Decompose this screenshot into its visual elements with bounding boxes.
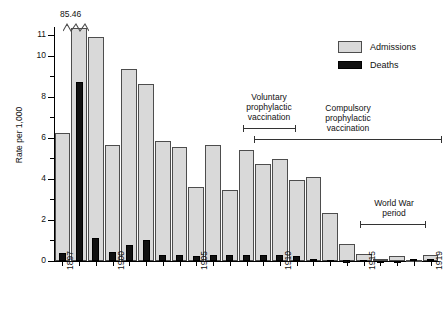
y-axis-title: Rate per 1,000 <box>14 90 24 180</box>
x-tick-1903 <box>163 261 164 266</box>
admissions-bar <box>306 177 322 261</box>
legend-item-deaths: Deaths <box>338 58 416 71</box>
x-tick-1906 <box>213 261 214 266</box>
y-tick-0 <box>48 261 54 262</box>
admissions-bar <box>255 164 271 262</box>
y-tick-label-11: 11 <box>24 30 46 39</box>
x-tick-1913 <box>330 261 331 266</box>
legend: Admissions Deaths <box>338 40 416 76</box>
y-tick-3 <box>50 199 54 200</box>
y-tick-4 <box>48 179 54 180</box>
y-tick-2 <box>48 220 54 221</box>
x-tick-1915 <box>364 261 365 266</box>
x-tick-1901 <box>129 261 130 266</box>
admissions-bar <box>339 244 355 261</box>
x-tick-1897 <box>62 261 63 266</box>
y-tick-9 <box>50 76 54 77</box>
y-tick-5 <box>50 158 54 159</box>
x-tick-label-1900: 1900 <box>117 251 126 270</box>
y-tick-10 <box>48 56 54 57</box>
x-tick-label-1897: 1897 <box>66 251 75 270</box>
admissions-bar <box>155 141 171 261</box>
axis-break-value: 85.46 <box>60 9 81 19</box>
y-tick-6 <box>48 138 54 139</box>
legend-label-deaths: Deaths <box>370 60 399 70</box>
annotation-voluntary-text: Voluntary prophylactic vaccination <box>232 92 306 122</box>
admissions-bar <box>289 180 305 261</box>
admissions-bar <box>239 150 255 261</box>
x-tick-1914 <box>347 261 348 266</box>
annotation-compulsory-bracket <box>254 135 442 143</box>
x-tick-label-1910: 1910 <box>284 251 293 270</box>
x-tick-1899 <box>96 261 97 266</box>
x-tick-1918 <box>414 261 415 266</box>
y-tick-label-0: 0 <box>24 256 46 265</box>
x-tick-label-1915: 1915 <box>368 251 377 270</box>
x-tick-label-1905: 1905 <box>200 251 209 270</box>
y-tick-label-10: 10 <box>24 51 46 60</box>
x-tick-1898 <box>79 261 80 266</box>
admissions-bar <box>105 145 121 261</box>
admissions-bar <box>55 133 71 261</box>
x-tick-1908 <box>247 261 248 266</box>
annotation-compulsory-text: Compulsory prophylactic vaccination <box>300 103 396 133</box>
x-tick-1909 <box>263 261 264 266</box>
x-tick-1917 <box>397 261 398 266</box>
y-tick-label-2: 2 <box>24 215 46 224</box>
annotation-voluntary-vaccination: Voluntary prophylactic vaccination <box>232 92 306 122</box>
y-tick-1 <box>50 240 54 241</box>
y-tick-8 <box>48 97 54 98</box>
admissions-swatch <box>338 41 362 53</box>
x-tick-1916 <box>380 261 381 266</box>
x-tick-label-1919: 1919 <box>435 251 444 270</box>
annotation-voluntary-bracket <box>243 124 296 132</box>
x-tick-1902 <box>146 261 147 266</box>
x-tick-1912 <box>313 261 314 266</box>
admissions-bar <box>272 159 288 261</box>
x-tick-1905 <box>196 261 197 266</box>
annotation-world-war-text: World War period <box>358 198 430 218</box>
admissions-bar <box>205 145 221 261</box>
annotation-world-war-period: World War period <box>358 198 430 218</box>
deaths-bar <box>76 82 83 261</box>
x-tick-1919 <box>431 261 432 266</box>
admissions-bar <box>138 84 154 261</box>
x-tick-1910 <box>280 261 281 266</box>
y-tick-7 <box>50 117 54 118</box>
admissions-bar <box>172 147 188 261</box>
x-tick-1911 <box>297 261 298 266</box>
admissions-bar <box>322 213 338 261</box>
admissions-bar <box>121 69 137 261</box>
legend-item-admissions: Admissions <box>338 40 416 53</box>
x-tick-1907 <box>230 261 231 266</box>
annotation-compulsory-vaccination: Compulsory prophylactic vaccination <box>300 103 396 133</box>
annotation-world-war-bracket <box>360 220 426 228</box>
legend-label-admissions: Admissions <box>370 42 416 52</box>
admissions-bar <box>188 187 204 261</box>
deaths-swatch <box>338 61 362 69</box>
admissions-bar <box>88 37 104 261</box>
x-tick-1900 <box>113 261 114 266</box>
y-tick-label-8: 8 <box>24 92 46 101</box>
x-tick-1904 <box>180 261 181 266</box>
chart-root: Rate per 1,000 024681011 189719001905191… <box>0 0 446 312</box>
y-tick-label-4: 4 <box>24 174 46 183</box>
deaths-bar <box>126 245 133 261</box>
admissions-bar <box>222 190 238 261</box>
deaths-bar <box>143 240 150 261</box>
y-tick-11 <box>48 35 54 36</box>
y-tick-label-6: 6 <box>24 133 46 142</box>
deaths-bar <box>92 238 99 261</box>
